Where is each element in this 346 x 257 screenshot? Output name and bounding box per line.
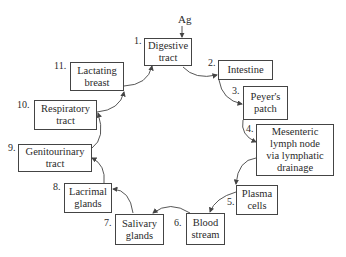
node-blood-stream: Blood stream xyxy=(186,213,225,245)
arrow-1-to-2 xyxy=(183,67,217,76)
node-mesenteric-lymph-node: Mesenteric lymph node via lymphatic drai… xyxy=(256,124,334,176)
node-lactating-breast: Lactating breast xyxy=(70,62,124,91)
node-genitourinary-tract: Genitourinary tract xyxy=(18,144,92,172)
arrow-7-to-8 xyxy=(113,189,133,213)
arrow-11-to-1 xyxy=(124,66,152,86)
step-number-1: 1. xyxy=(134,36,142,46)
antigen-circulation-diagram: Ag 1. Digestive tract 2. Intestine 3. Pe… xyxy=(0,0,346,257)
step-number-6: 6. xyxy=(174,218,182,228)
node-intestine: Intestine xyxy=(218,60,273,80)
step-number-8: 8. xyxy=(53,182,61,192)
arrow-4-to-5 xyxy=(236,158,256,184)
arrow-10-to-11 xyxy=(97,92,124,112)
node-digestive-tract: Digestive tract xyxy=(144,38,192,66)
node-lacrimal-glands: Lacrimal glands xyxy=(64,183,112,213)
step-number-5: 5. xyxy=(227,197,235,207)
arrow-6-to-7 xyxy=(153,207,190,214)
step-number-9: 9. xyxy=(8,143,16,153)
node-peyers-patch: Peyer's patch xyxy=(243,86,288,120)
step-number-10: 10. xyxy=(17,100,30,110)
antigen-label: Ag xyxy=(178,13,191,25)
step-number-7: 7. xyxy=(104,218,112,228)
node-respiratory-tract: Respiratory tract xyxy=(34,100,97,130)
arrow-8-to-9 xyxy=(92,158,104,183)
step-number-4: 4. xyxy=(246,124,254,134)
step-number-11: 11. xyxy=(54,61,66,71)
step-number-3: 3. xyxy=(232,86,240,96)
step-number-2: 2. xyxy=(208,58,216,68)
node-plasma-cells: Plasma cells xyxy=(236,185,278,215)
node-salivary-glands: Salivary glands xyxy=(115,214,164,245)
